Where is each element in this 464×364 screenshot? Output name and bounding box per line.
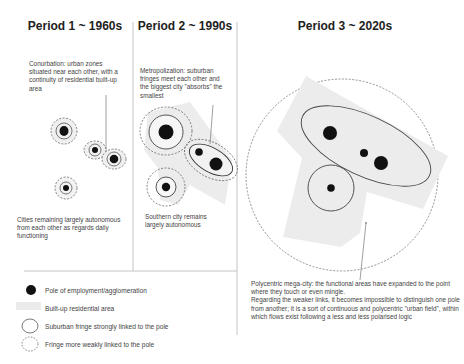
city-c	[102, 149, 126, 169]
pole	[374, 156, 388, 170]
city-a	[51, 118, 77, 144]
period-2-title: Period 2 ~ 1990s	[135, 19, 235, 33]
period-1-caption-bottom: Cities remaining largely autonomous from…	[17, 216, 129, 241]
built-up-area	[277, 76, 448, 247]
period-1-map	[51, 95, 126, 199]
city-d	[55, 177, 77, 199]
period-3-caption: Polycentric mega-city: the functional ar…	[251, 280, 463, 321]
period-2-caption-bottom: Southern city remains largely autonomous	[145, 213, 225, 229]
period-2-caption-top: Metropolization: suburban fringes meet e…	[140, 67, 230, 100]
period-1-caption-top: Conurbation: urban zones situated near e…	[29, 60, 125, 93]
pole	[327, 184, 335, 192]
solid-circle-icon	[22, 319, 38, 333]
legend-label-built-up: Built-up residential area	[45, 305, 114, 312]
caption-pointer	[360, 223, 366, 280]
legend-label-strong-fringe: Suburban fringe strongly linked to the p…	[45, 323, 169, 330]
period-2-map	[140, 102, 245, 206]
period-1-title: Period 1 ~ 1960s	[20, 19, 130, 33]
pole	[323, 126, 337, 140]
period-3-title: Period 3 ~ 2020s	[285, 19, 405, 33]
legend-label-pole: Pole of employment/agglomeration	[45, 287, 147, 294]
legend-icons	[16, 285, 41, 351]
built-up-area-swatch	[16, 302, 41, 310]
legend-label-weak-fringe: Fringe more weakly linked to the pole	[45, 341, 154, 348]
pole	[360, 149, 368, 157]
pole-dot-icon	[26, 285, 36, 295]
dashed-circle-icon	[22, 337, 38, 351]
period-3-map	[246, 76, 448, 280]
